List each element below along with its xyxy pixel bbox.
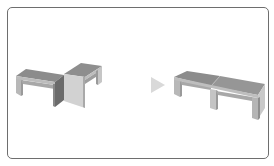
bench-rotated [64,63,102,108]
bench-combined-leg-middle [210,89,216,110]
bench-combined [174,71,265,120]
bench-left [16,69,64,107]
illustration [0,0,274,166]
bench-combined-leg-right [252,97,258,120]
bench-left-leg-left [16,77,21,96]
bench-rotated-leg-far [98,67,102,85]
bench-rotated-end-face [64,74,85,108]
play-arrow-icon [151,77,165,93]
